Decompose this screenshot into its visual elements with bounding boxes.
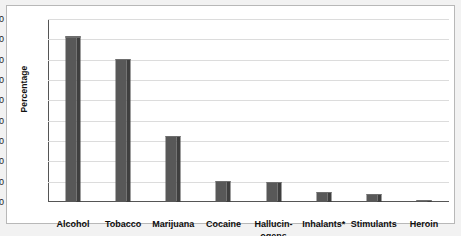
bar-slot bbox=[98, 19, 148, 202]
bar-top-highlight bbox=[416, 200, 431, 202]
bar-slot bbox=[198, 19, 248, 202]
bar-face bbox=[216, 181, 227, 202]
bar-side-shadow bbox=[277, 182, 281, 202]
y-axis-tick-label: 60 bbox=[0, 75, 4, 85]
bar-side-shadow bbox=[327, 192, 331, 202]
bar-face bbox=[316, 192, 327, 202]
bar-side-shadow bbox=[177, 136, 181, 202]
chart-figure: Percentage 0102030405060708090 AlcoholTo… bbox=[0, 0, 461, 236]
y-axis-tick-label: 90 bbox=[0, 14, 4, 24]
bar-top-highlight bbox=[166, 136, 181, 138]
bar-face bbox=[266, 182, 277, 202]
y-axis-tick-label: 40 bbox=[0, 116, 4, 126]
bar-series bbox=[48, 19, 449, 202]
bar[interactable] bbox=[266, 182, 281, 202]
bar[interactable] bbox=[166, 136, 181, 202]
bar-top-highlight bbox=[316, 192, 331, 194]
bar-side-shadow bbox=[127, 59, 131, 202]
bar-face bbox=[66, 36, 77, 202]
bar-slot bbox=[249, 19, 299, 202]
y-axis-tick-label: 80 bbox=[0, 34, 4, 44]
bar-face bbox=[116, 59, 127, 202]
bar[interactable] bbox=[116, 59, 131, 202]
y-axis-tick-label: 0 bbox=[0, 197, 4, 207]
bar-slot bbox=[399, 19, 449, 202]
y-axis-tick-label: 20 bbox=[0, 156, 4, 166]
bar[interactable] bbox=[66, 36, 81, 202]
bar-side-shadow bbox=[227, 181, 231, 202]
y-axis-tick-label: 50 bbox=[0, 95, 4, 105]
bar-top-highlight bbox=[116, 59, 131, 61]
chart-frame: Percentage 0102030405060708090 AlcoholTo… bbox=[6, 5, 455, 224]
bar-slot bbox=[299, 19, 349, 202]
bar-slot bbox=[349, 19, 399, 202]
y-axis-tick-label: 10 bbox=[0, 177, 4, 187]
bar[interactable] bbox=[216, 181, 231, 202]
bar-slot bbox=[48, 19, 98, 202]
y-axis-tick-label: 30 bbox=[0, 136, 4, 146]
bar-top-highlight bbox=[366, 194, 381, 196]
y-axis-tick-label: 70 bbox=[0, 55, 4, 65]
bar[interactable] bbox=[366, 194, 381, 202]
bar[interactable] bbox=[316, 192, 331, 202]
x-axis-tick-label: Heroin bbox=[393, 219, 455, 231]
bar[interactable] bbox=[416, 200, 431, 202]
y-axis-title: Percentage bbox=[19, 44, 29, 134]
bar-top-highlight bbox=[216, 181, 231, 183]
bar-top-highlight bbox=[66, 36, 81, 38]
bar-slot bbox=[148, 19, 198, 202]
bar-top-highlight bbox=[266, 182, 281, 184]
plot-area: 0102030405060708090 AlcoholTobaccoMariju… bbox=[48, 19, 449, 202]
bar-face bbox=[166, 136, 177, 202]
bar-side-shadow bbox=[77, 36, 81, 202]
